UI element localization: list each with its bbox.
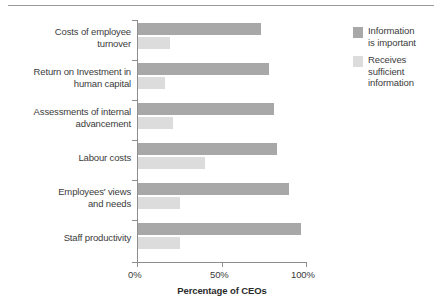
legend-item-receives-sufficient-information[interactable]: Receives sufficient information (353, 54, 441, 89)
category-label-return-on-investment: Return on Investment in human capital (34, 66, 131, 89)
bar-sufficient-employees-views-and-needs (138, 197, 180, 209)
legend-label-receives-sufficient-information: Receives sufficient information (368, 54, 441, 89)
chart-figure: 0% 50% 100% Percentage of CEOs Costs of … (0, 0, 442, 307)
bar-sufficient-assessments-of-internal-advancement (138, 117, 173, 129)
legend-item-information-is-important[interactable]: Information is important (353, 25, 441, 48)
bar-sufficient-return-on-investment (138, 77, 165, 89)
legend-swatch-icon-dark (353, 27, 363, 38)
category-label-employees-views-and-needs: Employees' views and needs (58, 186, 131, 209)
y-axis-tick (132, 100, 137, 101)
category-label-costs-of-employee-turnover: Costs of employee turnover (55, 26, 131, 49)
y-axis-tick (132, 140, 137, 141)
y-axis-tick (132, 220, 137, 221)
legend-label-information-is-important: Information is important (368, 25, 441, 48)
legend-swatch-icon-light (353, 56, 363, 67)
bar-important-assessments-of-internal-advancement (138, 103, 274, 115)
x-axis-tick-label-50: 50% (210, 269, 229, 280)
x-axis-tick-0 (137, 263, 138, 267)
y-axis-tick (132, 20, 137, 21)
bar-important-costs-of-employee-turnover (138, 23, 261, 35)
bar-sufficient-labour-costs (138, 157, 205, 169)
bar-important-return-on-investment (138, 63, 269, 75)
y-axis-tick (132, 60, 137, 61)
bar-sufficient-staff-productivity (138, 237, 180, 249)
category-label-labour-costs: Labour costs (78, 152, 131, 164)
x-axis-tick-label-100: 100% (291, 269, 315, 280)
x-axis-tick-label-0: 0% (128, 269, 142, 280)
bar-important-employees-views-and-needs (138, 183, 289, 195)
bar-sufficient-costs-of-employee-turnover (138, 37, 170, 49)
category-label-assessments-of-internal-advancement: Assessments of internal advancement (34, 106, 131, 129)
x-axis-tick-50 (222, 263, 223, 267)
x-axis-tick-100 (306, 263, 307, 267)
bar-important-labour-costs (138, 143, 277, 155)
chart-legend: Information is important Receives suffic… (353, 25, 441, 95)
x-axis-title: Percentage of CEOs (137, 285, 307, 296)
category-label-staff-productivity: Staff productivity (64, 232, 131, 244)
y-axis-tick (132, 180, 137, 181)
bar-important-staff-productivity (138, 223, 301, 235)
